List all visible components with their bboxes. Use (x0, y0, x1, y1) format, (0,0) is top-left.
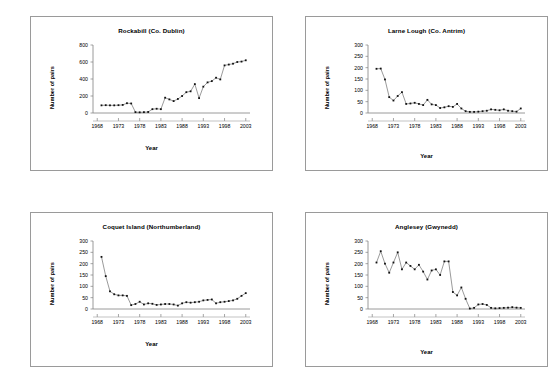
chart-panel-anglesey: Anglesey (Gwynedd)0501001502002503001968… (305, 212, 548, 367)
data-point-marker (405, 262, 407, 264)
data-point-marker (414, 268, 416, 270)
data-point-marker (435, 104, 437, 106)
data-point-marker (410, 265, 412, 267)
data-point-marker (228, 300, 230, 302)
data-point-marker (190, 302, 192, 304)
data-point-marker (118, 104, 120, 106)
y-axis-title: Number of pairs (324, 66, 330, 109)
data-point-marker (473, 111, 475, 113)
data-point-marker (499, 307, 501, 309)
x-axis-title: Year (31, 341, 272, 347)
data-point-marker (414, 102, 416, 104)
data-point-marker (105, 104, 107, 106)
data-point-marker (101, 104, 103, 106)
data-point-marker (135, 111, 137, 113)
data-point-marker (198, 97, 200, 99)
data-point-marker (443, 106, 445, 108)
data-point-marker (452, 291, 454, 293)
data-point-marker (147, 302, 149, 304)
data-point-marker (456, 103, 458, 105)
data-point-marker (228, 64, 230, 66)
data-point-marker (422, 271, 424, 273)
data-point-marker (486, 110, 488, 112)
data-point-marker (202, 299, 204, 301)
data-point-marker (401, 268, 403, 270)
data-point-marker (181, 95, 183, 97)
data-point-marker (397, 251, 399, 253)
data-point-marker (494, 307, 496, 309)
data-point-marker (185, 91, 187, 93)
data-point-marker (511, 110, 513, 112)
data-point-marker (143, 304, 145, 306)
chart-panel-coquet-island: Coquet Island (Northumberland)0501001502… (30, 212, 273, 367)
data-point-marker (431, 103, 433, 105)
data-point-marker (211, 80, 213, 82)
data-series-line (101, 257, 245, 306)
axis-lines (368, 45, 525, 113)
data-point-marker (439, 274, 441, 276)
data-point-marker (452, 106, 454, 108)
data-point-marker (122, 295, 124, 297)
y-axis-title: Number of pairs (324, 262, 330, 305)
data-point-marker (448, 105, 450, 107)
data-point-marker (401, 91, 403, 93)
chart-panel-rockabill: Rockabill (Co. Dublin)020040060080019681… (30, 16, 273, 171)
data-point-marker (126, 295, 128, 297)
data-point-marker (130, 304, 132, 306)
data-point-marker (109, 290, 111, 292)
data-point-marker (465, 298, 467, 300)
data-point-marker (511, 306, 513, 308)
data-point-marker (215, 302, 217, 304)
data-point-marker (469, 111, 471, 113)
data-point-marker (202, 86, 204, 88)
data-point-marker (494, 109, 496, 111)
data-point-marker (232, 63, 234, 65)
data-point-marker (482, 303, 484, 305)
data-point-marker (439, 107, 441, 109)
data-point-marker (384, 263, 386, 265)
data-point-marker (241, 295, 243, 297)
data-point-marker (122, 104, 124, 106)
data-point-marker (503, 307, 505, 309)
data-point-marker (139, 111, 141, 113)
data-point-marker (156, 304, 158, 306)
data-point-marker (245, 292, 247, 294)
data-point-marker (503, 108, 505, 110)
data-point-marker (384, 79, 386, 81)
data-point-marker (469, 308, 471, 310)
axis-lines (368, 241, 525, 309)
data-point-marker (105, 275, 107, 277)
plot-area-larne-lough (306, 17, 547, 170)
data-point-marker (410, 103, 412, 105)
data-point-marker (164, 303, 166, 305)
data-point-marker (198, 301, 200, 303)
data-point-marker (168, 303, 170, 305)
data-point-marker (520, 307, 522, 309)
data-point-marker (219, 301, 221, 303)
data-point-marker (168, 99, 170, 101)
data-point-marker (507, 110, 509, 112)
data-point-marker (380, 250, 382, 252)
data-point-marker (207, 299, 209, 301)
data-point-marker (194, 83, 196, 85)
data-point-marker (388, 272, 390, 274)
data-point-marker (232, 299, 234, 301)
data-point-marker (516, 111, 518, 113)
data-point-marker (443, 261, 445, 263)
data-point-marker (456, 295, 458, 297)
data-point-marker (181, 302, 183, 304)
data-point-marker (101, 256, 103, 258)
data-point-marker (236, 61, 238, 63)
data-point-marker (507, 307, 509, 309)
data-point-marker (211, 299, 213, 301)
data-point-marker (477, 111, 479, 113)
axis-lines (93, 241, 250, 309)
figure-container: Rockabill (Co. Dublin)020040060080019681… (0, 0, 555, 381)
data-point-marker (405, 103, 407, 105)
data-point-marker (460, 287, 462, 289)
axis-lines (93, 45, 250, 113)
data-point-marker (486, 304, 488, 306)
data-series-line (376, 251, 520, 308)
data-point-marker (152, 303, 154, 305)
data-point-marker (118, 295, 120, 297)
